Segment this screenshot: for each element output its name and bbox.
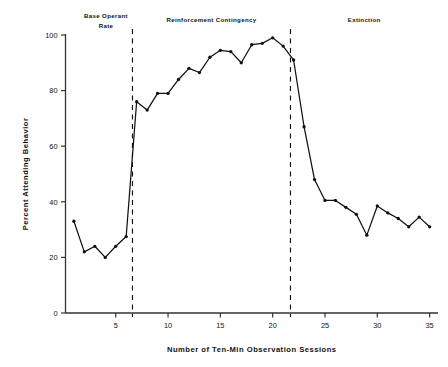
y-axis-title: Percent Attending Behavior: [21, 118, 30, 231]
y-tick-label: 40: [49, 198, 57, 207]
data-point-session-35: [428, 225, 431, 228]
data-point-session-13: [198, 71, 201, 74]
data-point-session-26: [334, 199, 337, 202]
data-line-percent-attending: [74, 38, 430, 258]
data-point-session-29: [365, 234, 368, 237]
data-point-session-1: [72, 220, 75, 223]
data-point-session-3: [93, 245, 96, 248]
x-tick-label: 20: [269, 321, 277, 330]
phase-label-reinforcement-contingency: Reinforcement Contingency: [166, 16, 256, 23]
x-tick-label: 5: [114, 321, 118, 330]
data-point-session-17: [240, 61, 243, 64]
x-axis-ticks: 5101520253035: [114, 313, 434, 330]
x-tick-label: 25: [321, 321, 329, 330]
data-point-session-22: [292, 58, 295, 61]
data-point-session-34: [418, 215, 421, 218]
data-point-session-30: [376, 204, 379, 207]
data-point-session-25: [323, 199, 326, 202]
data-point-session-23: [302, 125, 305, 128]
figure-container: Base Operant Rate Reinforcement Continge…: [0, 0, 448, 367]
x-tick-label: 10: [164, 321, 172, 330]
data-point-session-7: [135, 100, 138, 103]
data-point-session-9: [156, 92, 159, 95]
data-point-session-4: [104, 256, 107, 259]
y-tick-label: 60: [49, 142, 57, 151]
x-tick-label: 15: [216, 321, 224, 330]
data-point-session-5: [114, 245, 117, 248]
y-axis-ticks: 020406080100: [45, 31, 65, 318]
data-point-session-21: [281, 44, 284, 47]
data-point-session-6: [125, 235, 128, 238]
x-tick-label: 30: [373, 321, 381, 330]
x-tick-label: 35: [426, 321, 434, 330]
phase-label-base-operant-rate-line2: Rate: [99, 22, 114, 29]
data-point-session-31: [386, 211, 389, 214]
y-tick-label: 0: [53, 309, 57, 318]
data-point-session-2: [83, 250, 86, 253]
x-axis-title: Number of Ten-Min Observation Sessions: [167, 345, 337, 354]
phase-label-extinction: Extinction: [348, 16, 381, 23]
phase-labels: Base Operant Rate Reinforcement Continge…: [84, 12, 381, 29]
attending-behavior-line-chart: Base Operant Rate Reinforcement Continge…: [0, 0, 448, 367]
data-point-session-27: [344, 206, 347, 209]
data-point-session-20: [271, 36, 274, 39]
data-point-session-10: [166, 92, 169, 95]
data-point-session-28: [355, 213, 358, 216]
data-point-session-12: [187, 67, 190, 70]
phase-label-base-operant-rate-line1: Base Operant: [84, 12, 128, 19]
data-point-session-24: [313, 178, 316, 181]
y-tick-label: 80: [49, 86, 57, 95]
data-point-markers: [72, 36, 431, 259]
data-point-session-8: [145, 108, 148, 111]
y-tick-label: 100: [45, 31, 57, 40]
data-point-session-19: [261, 42, 264, 45]
data-point-session-18: [250, 43, 253, 46]
data-point-session-15: [219, 49, 222, 52]
phase-divider-lines: [132, 29, 290, 317]
data-point-session-14: [208, 56, 211, 59]
data-point-session-16: [229, 50, 232, 53]
data-point-session-32: [397, 217, 400, 220]
y-tick-label: 20: [49, 253, 57, 262]
data-point-session-11: [177, 78, 180, 81]
axes: [66, 34, 439, 313]
data-point-session-33: [407, 225, 410, 228]
